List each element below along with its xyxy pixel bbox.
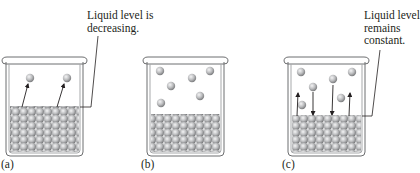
beaker-rim <box>284 57 369 64</box>
condensation-arrow <box>332 85 333 115</box>
evaporation-arrow <box>349 93 350 116</box>
liquid-molecules <box>10 106 79 152</box>
liquid-molecules <box>151 114 220 152</box>
beaker-rim <box>2 57 87 64</box>
gas-molecule <box>188 74 196 82</box>
gas-molecule <box>337 94 345 102</box>
beaker-b <box>143 57 228 156</box>
gas-molecule <box>196 92 204 100</box>
gas-molecule <box>309 83 317 91</box>
annotation-a: Liquid level is decreasing. <box>87 9 153 34</box>
beaker-rim <box>143 57 228 64</box>
gas-molecule <box>297 68 305 76</box>
gas-molecule <box>156 67 164 75</box>
gas-molecule <box>63 74 71 82</box>
gas-molecule <box>26 74 34 82</box>
evaporation-arrow <box>22 84 28 107</box>
evaporation-arrow <box>57 84 64 107</box>
gas-molecule <box>329 75 337 83</box>
gas-molecule <box>167 82 175 90</box>
panel-label-b: (b) <box>141 158 154 170</box>
annotation-c: Liquid level remains constant. <box>364 9 420 47</box>
beaker-c <box>284 50 380 156</box>
gas-molecule <box>206 67 214 75</box>
gas-molecule <box>348 68 356 76</box>
liquid-molecules <box>292 115 361 152</box>
beaker-a <box>2 36 98 156</box>
panel-label-c: (c) <box>282 158 295 170</box>
panel-label-a: (a) <box>1 158 14 170</box>
gas-molecule <box>157 99 165 107</box>
gas-molecule <box>298 101 306 109</box>
evaporation-arrow <box>297 93 298 116</box>
